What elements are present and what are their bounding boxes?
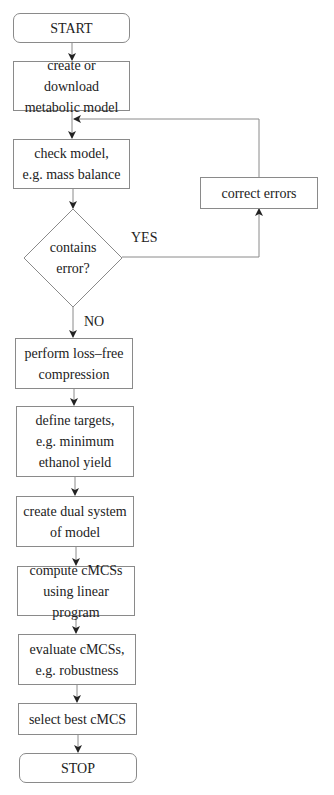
define-targets-node: define targets, e.g. minimum ethanol yie… [16, 406, 134, 477]
evaluate-cmcs-label: evaluate cMCSs, e.g. robustness [30, 639, 125, 681]
compute-cmcs-node: compute cMCSs using linear program [17, 566, 135, 616]
contains-error-label: contains error? [40, 237, 106, 279]
no-label: NO [84, 314, 104, 330]
check-model-node: check model, e.g. mass balance [13, 139, 130, 189]
select-best-node: select best cMCS [18, 703, 137, 735]
flowchart-canvas: START create or download metabolic model… [0, 0, 334, 795]
yes-label: YES [131, 230, 157, 246]
stop-node: STOP [19, 753, 137, 783]
define-targets-label: define targets, e.g. minimum ethanol yie… [35, 410, 114, 473]
stop-label: STOP [61, 758, 95, 779]
start-label: START [50, 18, 92, 39]
correct-errors-label: correct errors [221, 183, 296, 204]
create-model-node: create or download metabolic model [13, 61, 130, 111]
evaluate-cmcs-node: evaluate cMCSs, e.g. robustness [18, 634, 136, 685]
correct-errors-node: correct errors [200, 177, 318, 209]
compute-cmcs-label: compute cMCSs using linear program [22, 560, 130, 623]
select-best-label: select best cMCS [29, 709, 126, 730]
dual-system-node: create dual system of model [16, 496, 134, 547]
create-model-label: create or download metabolic model [18, 55, 125, 118]
compression-label: perform loss–free compression [24, 343, 123, 385]
start-node: START [13, 13, 130, 43]
dual-system-label: create dual system of model [23, 501, 126, 543]
check-model-label: check model, e.g. mass balance [23, 143, 121, 185]
compression-node: perform loss–free compression [15, 338, 133, 389]
